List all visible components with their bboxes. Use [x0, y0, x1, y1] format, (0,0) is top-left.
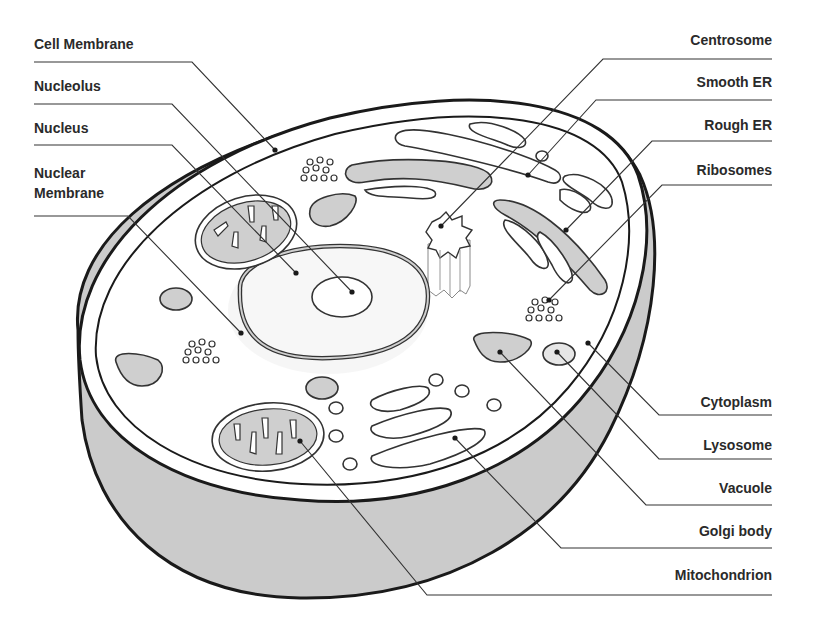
nucleolus: [312, 277, 372, 317]
label-smooth-er: Smooth ER: [697, 74, 772, 91]
label-centrosome: Centrosome: [690, 32, 772, 49]
label-nucleus: Nucleus: [34, 120, 88, 137]
label-rough-er: Rough ER: [704, 117, 772, 134]
label-vacuole: Vacuole: [719, 480, 772, 497]
label-nucleolus: Nucleolus: [34, 78, 101, 95]
label-ribosomes: Ribosomes: [697, 162, 772, 179]
label-lysosome: Lysosome: [703, 437, 772, 454]
label-nuclear-membrane-line1: Nuclear: [34, 165, 85, 182]
animal-cell-diagram: [0, 0, 814, 630]
label-mitochondrion: Mitochondrion: [675, 567, 772, 584]
label-nuclear-membrane-line2: Membrane: [34, 185, 104, 202]
label-cell-membrane: Cell Membrane: [34, 36, 134, 53]
label-golgi-body: Golgi body: [699, 523, 772, 540]
label-cytoplasm: Cytoplasm: [700, 394, 772, 411]
